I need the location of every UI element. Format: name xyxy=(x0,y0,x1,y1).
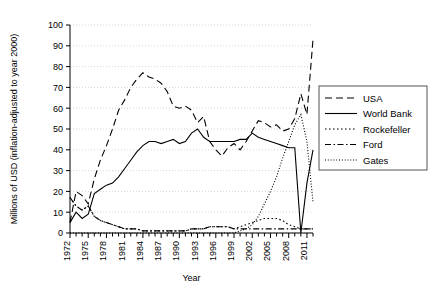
y-tick-label: 50 xyxy=(53,124,63,134)
y-axis-title: Millions of USD (inflation-adjusted to y… xyxy=(9,34,19,225)
x-tick-label: 1990 xyxy=(171,241,181,261)
x-tick-label: 1978 xyxy=(98,241,108,261)
y-tick-label: 100 xyxy=(48,20,63,30)
legend: USAWorld BankRockefellerFordGates xyxy=(319,86,427,170)
y-tick-label: 60 xyxy=(53,104,63,114)
legend-label-world-bank: World Bank xyxy=(363,108,412,119)
x-tick-label: 1996 xyxy=(208,241,218,261)
chart-figure: 0102030405060708090100 19721975197819811… xyxy=(0,0,433,287)
y-tick-label: 90 xyxy=(53,41,63,51)
y-tick-label: 30 xyxy=(53,166,63,176)
legend-label-usa: USA xyxy=(363,93,383,104)
x-tick-label: 2005 xyxy=(262,241,272,261)
x-tick-label: 1975 xyxy=(80,241,90,261)
line-chart: 0102030405060708090100 19721975197819811… xyxy=(0,0,433,287)
y-tick-label: 0 xyxy=(58,228,63,238)
legend-label-rockefeller: Rockefeller xyxy=(363,124,411,135)
x-tick-label: 1972 xyxy=(62,241,72,261)
x-tick-label: 1984 xyxy=(135,241,145,261)
legend-label-gates: Gates xyxy=(363,155,389,166)
x-tick-label: 2011 xyxy=(299,241,309,260)
y-tick-label: 80 xyxy=(53,62,63,72)
x-tick-label: 1999 xyxy=(226,241,236,261)
x-tick-label: 1987 xyxy=(153,241,163,261)
x-tick-label: 1993 xyxy=(190,241,200,261)
x-tick-label: 2008 xyxy=(281,241,291,261)
x-axis-title: Year xyxy=(182,273,200,283)
x-tick-label: 2002 xyxy=(244,241,254,261)
y-tick-label: 70 xyxy=(53,83,63,93)
y-tick-label: 40 xyxy=(53,145,63,155)
x-tick-label: 1981 xyxy=(117,241,127,261)
y-tick-label: 10 xyxy=(53,208,63,218)
legend-label-ford: Ford xyxy=(363,139,383,150)
y-tick-label: 20 xyxy=(53,187,63,197)
